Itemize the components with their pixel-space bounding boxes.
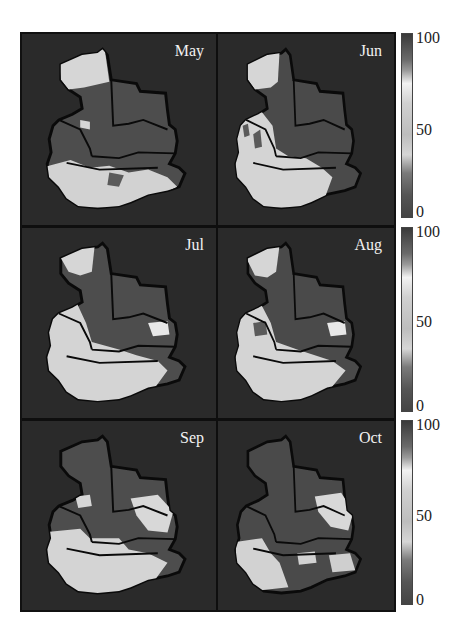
colorbar-tick-100: 100 [416,224,440,240]
month-label: Aug [354,236,382,254]
colorbar-tick-0: 0 [416,592,424,608]
colorbar-tick-50: 50 [416,314,432,330]
colorbar-row-1 [401,33,413,218]
map-jun [218,34,394,225]
map-panel-may: May [22,34,216,225]
month-label: Jun [360,42,382,60]
month-label: May [175,42,204,60]
column-divider [216,34,218,610]
month-label: Jul [185,236,204,254]
map-panel-jun: Jun [218,34,394,225]
month-label: Sep [180,429,204,447]
month-label: Oct [359,429,382,447]
row-divider-2 [22,418,394,421]
figure: May Jun [0,0,467,637]
map-aug [218,228,394,418]
map-panel-jul: Jul [22,228,216,418]
map-jul [22,228,216,418]
colorbar-tick-100: 100 [416,417,440,433]
colorbar-tick-100: 100 [416,30,440,46]
map-sep [22,421,216,610]
map-oct [218,421,394,610]
map-may [22,34,216,225]
colorbar-tick-50: 50 [416,122,432,138]
colorbar-tick-50: 50 [416,508,432,524]
map-panel-aug: Aug [218,228,394,418]
colorbar-tick-0: 0 [416,204,424,220]
map-panel-sep: Sep [22,421,216,610]
row-divider-1 [22,225,394,228]
colorbar-row-3 [401,420,413,605]
colorbar-row-2 [401,227,413,412]
colorbar-tick-0: 0 [416,398,424,414]
map-panel-oct: Oct [218,421,394,610]
